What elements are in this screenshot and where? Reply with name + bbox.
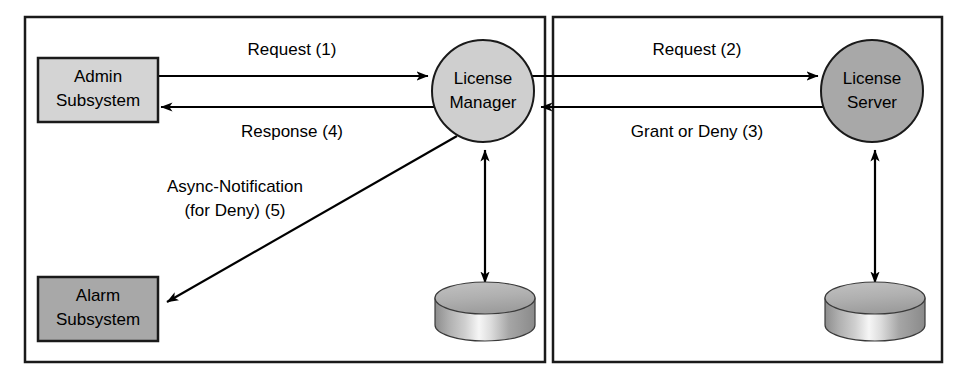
alarm-subsystem-label-line2: Subsystem — [56, 310, 140, 329]
node-alarm-subsystem[interactable]: Alarm Subsystem — [38, 277, 158, 341]
license-manager-label-line1: License — [454, 69, 513, 88]
edge-label-request-2: Request (2) — [653, 40, 742, 59]
node-license-server[interactable]: License Server — [821, 40, 923, 142]
license-manager-label-line2: Manager — [449, 93, 516, 112]
admin-subsystem-label-line1: Admin — [74, 67, 122, 86]
license-server-label-line2: Server — [847, 93, 897, 112]
alarm-subsystem-label-line1: Alarm — [76, 286, 120, 305]
node-license-manager[interactable]: License Manager — [432, 40, 534, 142]
edge-label-request-1: Request (1) — [248, 40, 337, 59]
edge-label-grant-or-deny-3: Grant or Deny (3) — [631, 122, 763, 141]
node-license-manager-database[interactable] — [435, 282, 535, 341]
edge-label-async-notification-5-line2: (for Deny) (5) — [184, 201, 285, 220]
edge-label-async-notification-5-line1: Async-Notification — [167, 177, 303, 196]
node-admin-subsystem[interactable]: Admin Subsystem — [38, 58, 158, 122]
admin-subsystem-label-line2: Subsystem — [56, 91, 140, 110]
node-license-server-database[interactable] — [825, 282, 925, 341]
license-server-label-line1: License — [843, 69, 902, 88]
edge-label-response-4: Response (4) — [241, 122, 343, 141]
diagram-canvas: Request (1) Response (4) Request (2) Gra… — [0, 0, 957, 379]
